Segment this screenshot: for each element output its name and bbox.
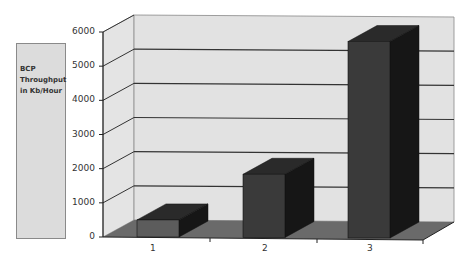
x-tick-label: 2 <box>262 243 268 253</box>
x-tick-label: 1 <box>150 243 156 253</box>
bar-side <box>390 26 419 238</box>
x-tick-label: 3 <box>367 243 373 253</box>
bar-front <box>243 174 285 237</box>
bar-3 <box>348 26 419 238</box>
bar-2 <box>243 158 314 237</box>
y-tick-label: 6000 <box>55 26 95 36</box>
legend-box: BCP Throughput in Kb/Hour <box>16 43 66 239</box>
legend-label: BCP Throughput in Kb/Hour <box>20 64 66 97</box>
bar-front <box>137 220 179 237</box>
bar-front <box>348 42 390 238</box>
chart-container: 0100020003000400050006000 123 BCP Throug… <box>0 0 468 268</box>
